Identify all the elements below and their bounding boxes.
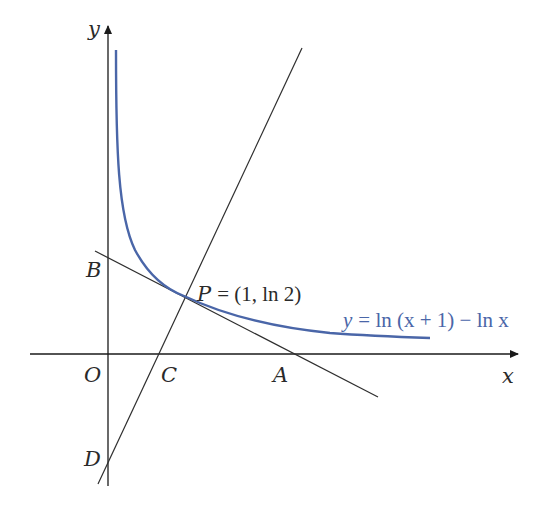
- point-p-coords: = (1, ln 2): [217, 282, 301, 306]
- point-p-label: P = (1, ln 2): [196, 282, 301, 306]
- curve-equation-lhs: y: [341, 308, 353, 332]
- curve-equation-rhs: = ln (x + 1) − ln x: [358, 308, 509, 332]
- point-c-label: C: [161, 363, 177, 387]
- point-d-label: D: [83, 447, 101, 471]
- curve-equation: y = ln (x + 1) − ln x: [341, 308, 509, 332]
- x-axis-label: x: [502, 364, 514, 388]
- point-b-label: B: [85, 258, 101, 282]
- diagram-canvas: y x O B C A D P = (1, ln 2) y = ln (x + …: [0, 0, 541, 507]
- tangent-line: [95, 251, 378, 397]
- origin-label: O: [84, 363, 101, 387]
- point-p-name: P: [196, 282, 212, 306]
- normal-line: [98, 48, 302, 484]
- point-a-label: A: [271, 363, 288, 387]
- y-axis-label: y: [87, 17, 101, 41]
